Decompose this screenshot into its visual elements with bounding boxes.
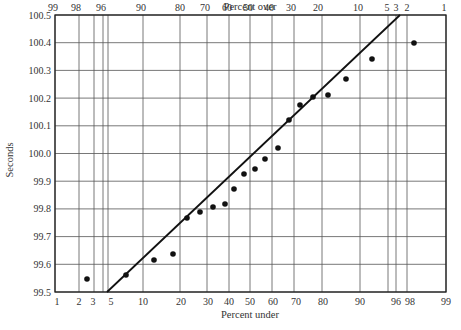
- data-point: [252, 166, 258, 172]
- x-top-tick-label: 3: [394, 2, 399, 13]
- x-top-tick-label: 96: [96, 2, 106, 13]
- data-point: [222, 201, 228, 207]
- x-top-tick-label: 90: [136, 2, 146, 13]
- data-point: [170, 251, 176, 257]
- y-tick-label: 100.0: [29, 148, 52, 159]
- data-point: [369, 56, 375, 62]
- data-point: [151, 257, 157, 263]
- x-axis-bottom-title: Percent under: [221, 309, 280, 320]
- x-bottom-tick-label: 70: [291, 296, 301, 307]
- data-point: [84, 276, 90, 282]
- y-tick-label: 99.8: [34, 203, 52, 214]
- data-point: [210, 204, 216, 210]
- x-top-tick-label: 99: [48, 2, 58, 13]
- x-bottom-tick-label: 10: [138, 296, 148, 307]
- data-point: [231, 186, 237, 192]
- data-point: [343, 76, 349, 82]
- x-bottom-tick-label: 98: [405, 296, 415, 307]
- x-bottom-tick-label: 60: [268, 296, 278, 307]
- data-points: [84, 40, 417, 282]
- x-bottom-tick-label: 20: [176, 296, 186, 307]
- data-point: [262, 156, 268, 162]
- x-top-tick-label: 1: [442, 2, 447, 13]
- x-bottom-tick-label: 30: [203, 296, 213, 307]
- x-axis-top-title: Percent over: [224, 1, 277, 12]
- x-top-tick-label: 2: [405, 2, 410, 13]
- x-bottom-tick-label: 99: [441, 296, 451, 307]
- x-bottom-tick-label: 90: [355, 296, 365, 307]
- y-tick-label: 99.5: [34, 287, 52, 298]
- y-tick-label: 99.9: [34, 176, 52, 187]
- x-bottom-tick-label: 50: [245, 296, 255, 307]
- data-point: [310, 94, 316, 100]
- x-axis-bottom-ticks: 1235102030405060708090969899: [55, 296, 452, 307]
- y-axis-title: Seconds: [4, 143, 15, 178]
- x-bottom-tick-label: 80: [318, 296, 328, 307]
- data-point: [241, 171, 247, 177]
- grid: [55, 15, 446, 292]
- x-top-tick-label: 98: [71, 2, 81, 13]
- y-tick-label: 100.1: [29, 120, 52, 131]
- data-point: [197, 209, 203, 215]
- x-top-tick-label: 80: [175, 2, 185, 13]
- y-tick-label: 100.2: [29, 93, 52, 104]
- data-point: [286, 117, 292, 123]
- data-point: [297, 102, 303, 108]
- x-top-tick-label: 20: [313, 2, 323, 13]
- y-tick-label: 100.3: [29, 65, 52, 76]
- data-point: [325, 92, 331, 98]
- x-bottom-tick-label: 1: [55, 296, 60, 307]
- x-bottom-tick-label: 2: [77, 296, 82, 307]
- x-top-tick-label: 5: [385, 2, 390, 13]
- y-tick-label: 99.7: [34, 231, 52, 242]
- x-top-tick-label: 30: [286, 2, 296, 13]
- x-bottom-tick-label: 40: [224, 296, 234, 307]
- y-tick-label: 99.6: [34, 259, 52, 270]
- data-point: [123, 272, 129, 278]
- data-point: [275, 145, 281, 151]
- x-bottom-tick-label: 96: [391, 296, 401, 307]
- probability-plot: 100.5100.4100.3100.2100.1100.099.999.899…: [0, 0, 461, 330]
- y-tick-label: 100.4: [29, 37, 52, 48]
- data-point: [411, 40, 417, 46]
- x-bottom-tick-label: 5: [109, 296, 114, 307]
- data-point: [184, 215, 190, 221]
- x-top-tick-label: 10: [353, 2, 363, 13]
- x-top-tick-label: 70: [200, 2, 210, 13]
- x-bottom-tick-label: 3: [91, 296, 96, 307]
- y-axis-ticks: 100.5100.4100.3100.2100.1100.099.999.899…: [29, 10, 52, 298]
